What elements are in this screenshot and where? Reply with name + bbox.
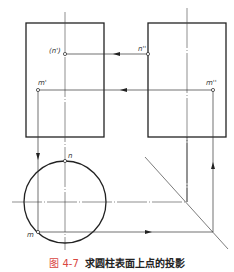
label-m-side: m'' (206, 79, 217, 87)
point-n-side (146, 52, 149, 55)
figure-caption: 图 4-7求圆柱表面上点的投影 (0, 255, 234, 270)
point-n-front (63, 52, 66, 55)
label-m-top: m (27, 231, 34, 239)
label-n-side: n'' (138, 45, 146, 53)
arrow-icon (113, 52, 120, 56)
miter-line (145, 157, 228, 249)
point-m-front (36, 88, 39, 91)
arrow-icon (211, 162, 215, 169)
cylinder-projection-diagram: (n') n'' m' m'' n m (0, 0, 234, 255)
arrow-icon (36, 153, 40, 160)
figure-title: 求圆柱表面上点的投影 (85, 258, 185, 269)
label-n-top: n (68, 152, 72, 160)
arrow-icon (145, 230, 152, 234)
arrow-icon (120, 88, 127, 92)
point-n-top (63, 159, 66, 162)
point-m-top (36, 230, 39, 233)
point-m-side (211, 88, 214, 91)
label-m-front: m' (38, 79, 47, 87)
label-n-front: (n') (49, 47, 61, 55)
figure-number: 图 4-7 (49, 258, 79, 269)
